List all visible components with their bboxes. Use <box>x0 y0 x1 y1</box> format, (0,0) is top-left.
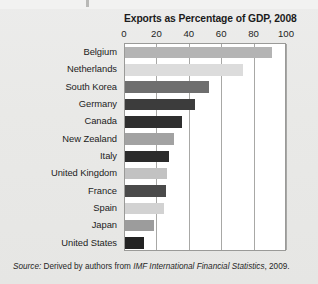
y-axis-label: Netherlands <box>67 63 117 74</box>
bar <box>125 185 166 197</box>
figure-container: Exports as Percentage of GDP, 2008 02040… <box>0 0 318 284</box>
y-axis-label: Canada <box>84 115 117 126</box>
y-axis-label: South Korea <box>65 81 117 92</box>
y-axis-label: United States <box>61 237 117 248</box>
y-label-row: Japan <box>10 216 121 233</box>
y-label-row: Belgium <box>10 43 121 60</box>
y-axis-label: Italy <box>100 150 117 161</box>
bar <box>125 64 243 76</box>
y-axis-label: Belgium <box>83 46 117 57</box>
y-axis-label: Germany <box>79 98 117 109</box>
bar-row <box>125 165 287 182</box>
y-label-row: Netherlands <box>10 60 121 77</box>
bar-row <box>125 44 287 61</box>
bar-row <box>125 79 287 96</box>
bar <box>125 237 144 249</box>
y-axis-label: New Zealand <box>62 133 117 144</box>
y-label-row: Italy <box>10 147 121 164</box>
y-label-row: France <box>10 182 121 199</box>
x-tick-label-100: 100 <box>278 28 294 39</box>
y-label-row: Canada <box>10 112 121 129</box>
x-tick-label-40: 40 <box>183 28 194 39</box>
y-axis-label: Spain <box>93 202 117 213</box>
scan-artifact <box>86 0 89 7</box>
y-label-row: South Korea <box>10 78 121 95</box>
bar <box>125 151 169 163</box>
bar-series <box>125 44 287 252</box>
chart-title: Exports as Percentage of GDP, 2008 <box>124 13 314 24</box>
y-axis-label: France <box>88 185 117 196</box>
bar-row <box>125 113 287 130</box>
x-tick-label-0: 0 <box>121 28 126 39</box>
x-tick-label-60: 60 <box>216 28 227 39</box>
x-axis-tick-labels: 020406080100 <box>124 28 286 41</box>
bar <box>125 47 272 59</box>
source-note: Source: Derived by authors from IMF Inte… <box>13 262 309 271</box>
y-axis-label: Japan <box>92 219 117 230</box>
source-label: Source: <box>13 262 41 271</box>
bar-row <box>125 200 287 217</box>
bar <box>125 203 164 215</box>
y-label-row: New Zealand <box>10 130 121 147</box>
bar-row <box>125 148 287 165</box>
bar-row <box>125 183 287 200</box>
bar-row <box>125 235 287 252</box>
plot-area <box>124 43 286 251</box>
y-axis-label: United Kingdom <box>51 167 117 178</box>
bar <box>125 133 174 145</box>
bar <box>125 220 154 232</box>
bar <box>125 168 167 180</box>
source-publication: IMF International Financial Statistics <box>133 262 264 271</box>
bar <box>125 81 209 93</box>
bar-row <box>125 61 287 78</box>
bar-row <box>125 131 287 148</box>
bar-row <box>125 96 287 113</box>
bar-row <box>125 217 287 234</box>
y-label-row: United Kingdom <box>10 164 121 181</box>
x-tick-label-80: 80 <box>248 28 259 39</box>
y-axis-category-labels: BelgiumNetherlandsSouth KoreaGermanyCana… <box>10 43 121 251</box>
source-text-after: , 2009. <box>265 262 290 271</box>
bar <box>125 116 182 128</box>
y-label-row: United States <box>10 234 121 251</box>
x-tick-label-20: 20 <box>151 28 162 39</box>
scan-edge <box>0 0 318 9</box>
bar <box>125 99 195 111</box>
y-label-row: Spain <box>10 199 121 216</box>
y-label-row: Germany <box>10 95 121 112</box>
source-text-before: Derived by authors from <box>41 262 133 271</box>
